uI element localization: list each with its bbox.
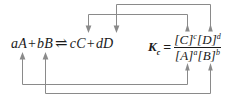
equilibrium-constant-diagram: aA+bB⇌cC+dD Kc = [C]c[D]d [A]a[B]b [0,0,233,101]
exponent-b: b [216,48,220,57]
product-c-species: C [76,36,86,51]
exponent-d: d [217,32,221,41]
connector-exponent-d-to-coefficient-d [114,5,213,34]
connector-exponent-c-to-coefficient-c [86,15,190,34]
numerator-species-d: D [202,32,212,47]
reactant-a-species: A [18,36,27,51]
kc-numerator: [C]c[D]d [174,32,221,47]
kc-letter: K [148,39,157,54]
equilibrium-arrow-icon: ⇌ [53,35,70,51]
kc-denominator: [A]a[B]b [175,48,220,63]
reactant-b-species: B [44,36,53,51]
kc-symbol: Kc [148,40,160,57]
product-d-species: D [103,36,113,51]
denominator-species-b: B [203,49,211,64]
numerator-species-c: C [179,32,188,47]
reaction-equation: aA+bB⇌cC+dD [11,36,113,51]
plus-operator-right: + [86,36,96,51]
kc-fraction: [C]c[D]d [A]a[B]b [174,32,221,64]
equals-sign: = [160,41,174,55]
equilibrium-constant-expression: Kc = [C]c[D]d [A]a[B]b [148,32,221,64]
plus-operator-left: + [27,36,37,51]
